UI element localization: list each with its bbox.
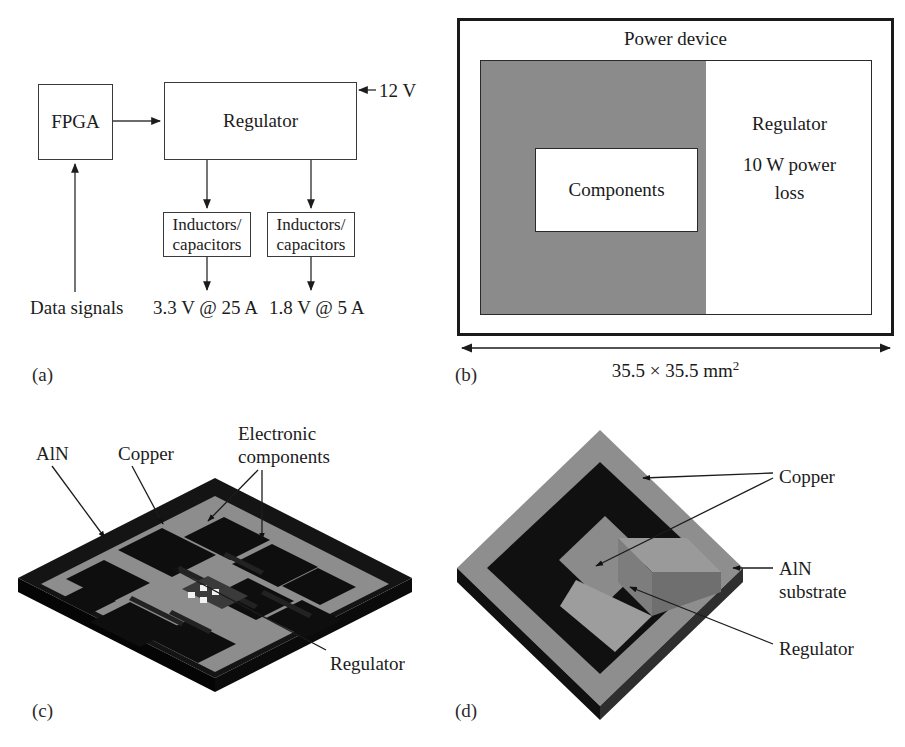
leader-copper-c xyxy=(132,466,163,524)
components-region: Components xyxy=(535,148,698,232)
substrate-side-right xyxy=(600,568,743,720)
pcb-side-right xyxy=(215,578,412,692)
pcb-component-pads xyxy=(60,517,356,663)
dimension-exponent: 2 xyxy=(733,358,739,373)
block-regulator-label: Regulator xyxy=(223,110,298,132)
pcb-regulator-bumps xyxy=(188,585,219,603)
label-output-right: 1.8 V @ 5 A xyxy=(269,297,364,318)
label-input-voltage: 12 V xyxy=(379,80,416,101)
panel-tag-b: (b) xyxy=(455,364,477,385)
panel-c-leaders xyxy=(52,466,326,650)
label-regulator-c: Regulator xyxy=(330,653,405,674)
leader-regulator-d xyxy=(630,587,773,644)
block-inductors-right-line2: capacitors xyxy=(277,235,346,255)
regulator-block-front xyxy=(560,580,652,652)
panel-tag-a: (a) xyxy=(32,364,53,385)
substrate-copper-top xyxy=(457,430,743,706)
label-copper-c: Copper xyxy=(118,443,174,464)
leader-electronic-components-left xyxy=(208,470,258,521)
leader-copper-d-outer xyxy=(643,473,773,478)
power-device-title: Power device xyxy=(457,28,894,50)
label-output-left: 3.3 V @ 25 A xyxy=(153,297,258,318)
figure-root: FPGA Regulator Inductors/ capacitors Ind… xyxy=(0,0,905,747)
substrate-side-left xyxy=(457,568,600,720)
label-aln-substrate: AlN substrate xyxy=(779,558,847,604)
dimension-value: 35.5 × 35.5 mm xyxy=(612,360,733,381)
block-inductors-capacitors-left: Inductors/ capacitors xyxy=(163,212,251,257)
regulator-block-top xyxy=(618,538,721,572)
block-inductors-left-line1: Inductors/ xyxy=(173,215,242,235)
block-fpga-label: FPGA xyxy=(51,111,100,133)
components-label: Components xyxy=(568,179,664,201)
pcb-side-left xyxy=(18,578,215,692)
regulator-block-side-right xyxy=(652,572,721,616)
label-data-signals: Data signals xyxy=(30,297,123,318)
label-aln-c: AlN xyxy=(36,443,69,464)
label-aln-substrate-line1: AlN xyxy=(779,558,847,581)
regulator-block-side-left xyxy=(618,538,652,616)
panel-d-leaders xyxy=(596,473,773,644)
label-electronic-components: Electronic components xyxy=(238,423,330,469)
regulator-region-title: Regulator xyxy=(712,110,867,139)
block-inductors-left-line2: capacitors xyxy=(173,235,242,255)
panel-tag-c: (c) xyxy=(32,700,53,721)
leader-regulator-c xyxy=(172,568,326,650)
leader-aln-c xyxy=(52,466,105,538)
block-inductors-right-line1: Inductors/ xyxy=(277,215,346,235)
regulator-power-loss-line1: 10 W power xyxy=(712,151,867,180)
label-copper-d: Copper xyxy=(779,466,835,487)
inner-copper-pad xyxy=(559,516,651,604)
leader-copper-d-inner xyxy=(596,478,773,566)
aln-interior xyxy=(487,462,713,674)
label-regulator-d: Regulator xyxy=(779,638,854,659)
block-fpga: FPGA xyxy=(38,84,113,160)
block-regulator: Regulator xyxy=(164,82,357,160)
regulator-region: Regulator 10 W power loss xyxy=(712,110,867,208)
pcb-top-plate xyxy=(18,478,412,678)
block-inductors-capacitors-right: Inductors/ capacitors xyxy=(267,212,355,257)
pcb-copper-plane xyxy=(41,496,389,672)
label-aln-substrate-line2: substrate xyxy=(779,581,847,604)
pcb-regulator-chip xyxy=(182,576,248,609)
regulator-power-loss-line2: loss xyxy=(712,179,867,208)
label-electronic-components-line1: Electronic xyxy=(238,423,330,446)
label-electronic-components-line2: components xyxy=(238,446,330,469)
panel-tag-d: (d) xyxy=(455,700,477,721)
dimension-label: 35.5 × 35.5 mm2 xyxy=(457,358,894,382)
pcb-traces xyxy=(129,552,312,634)
substrate-isometric-artwork xyxy=(457,430,743,720)
